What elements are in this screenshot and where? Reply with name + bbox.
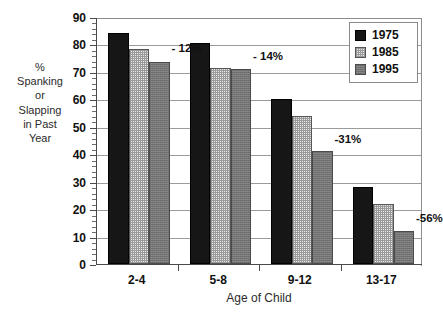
bar-1995-2-4 <box>149 62 170 264</box>
bar-1975-13-17 <box>353 187 374 264</box>
legend: 1975 1985 1995 <box>349 22 418 83</box>
y-tick-label-40: 40 <box>60 149 86 161</box>
legend-swatch-1995-icon <box>355 64 366 75</box>
x-axis-title: Age of Child <box>96 291 422 305</box>
bar-1995-9-12 <box>312 151 333 264</box>
bar-1975-5-8 <box>190 43 211 264</box>
y-tick-label-0: 0 <box>60 259 86 271</box>
bar-1985-9-12 <box>292 116 313 264</box>
legend-label-1975: 1975 <box>372 29 399 42</box>
legend-item-1975[interactable]: 1975 <box>355 27 413 44</box>
bar-1985-2-4 <box>129 49 150 264</box>
bar-1975-2-4 <box>108 33 129 264</box>
x-axis-separator <box>178 265 179 271</box>
legend-label-1985: 1985 <box>372 46 399 59</box>
x-axis-separator <box>341 265 342 271</box>
legend-item-1985[interactable]: 1985 <box>355 44 413 61</box>
x-tick-label-2-4: 2-4 <box>96 274 178 287</box>
bar-1995-13-17 <box>394 231 415 264</box>
y-tick-label-20: 20 <box>60 204 86 216</box>
y-tick-label-70: 70 <box>60 67 86 79</box>
bar-1975-9-12 <box>271 99 292 264</box>
y-tick-label-90: 90 <box>60 12 86 24</box>
x-tick-label-5-8: 5-8 <box>178 274 260 287</box>
y-tick-label-60: 60 <box>60 94 86 106</box>
legend-swatch-1985-icon <box>355 47 366 58</box>
bar-1985-5-8 <box>210 68 231 264</box>
annotation-5-8: - 14% <box>253 50 283 62</box>
y-tick-label-80: 80 <box>60 39 86 51</box>
y-tick-label-30: 30 <box>60 177 86 189</box>
y-tick-label-50: 50 <box>60 122 86 134</box>
x-axis-separator <box>259 265 260 271</box>
x-tick-label-9-12: 9-12 <box>259 274 341 287</box>
y-tick-0 <box>90 265 96 266</box>
legend-item-1995[interactable]: 1995 <box>355 61 413 78</box>
bar-1985-13-17 <box>373 204 394 264</box>
annotation-9-12: -31% <box>335 133 362 145</box>
annotation-13-17: -56% <box>416 212 443 224</box>
x-tick-label-13-17: 13-17 <box>341 274 423 287</box>
y-tick-label-10: 10 <box>60 232 86 244</box>
bar-1995-5-8 <box>231 69 252 264</box>
annotation-2-4: - 12% <box>172 42 202 54</box>
legend-swatch-1975-icon <box>355 30 366 41</box>
legend-label-1995: 1995 <box>372 63 399 76</box>
